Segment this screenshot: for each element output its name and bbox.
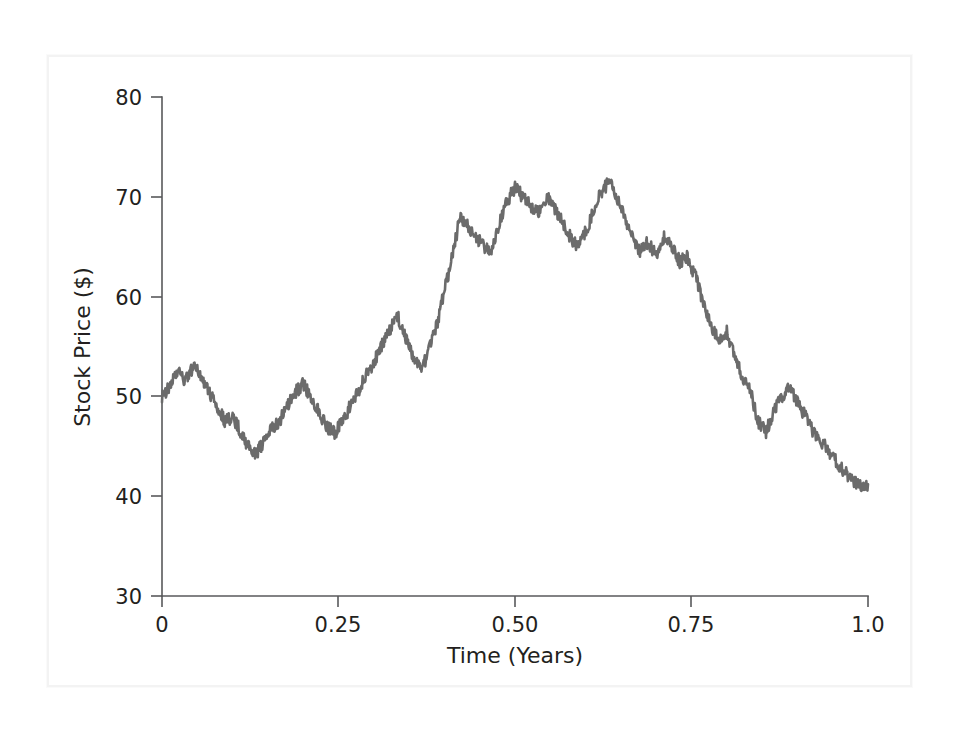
y-tick-label-50: 50 (115, 385, 142, 409)
x-tick-label-10: 1.0 (851, 613, 884, 637)
x-tick-label-025: 0.25 (315, 613, 362, 637)
figure-root: 80 70 60 50 40 30 0 0.25 0.50 0.75 1.0 T… (0, 0, 957, 737)
y-axis-ticks (151, 97, 162, 596)
x-tick-label-075: 0.75 (668, 613, 715, 637)
x-tick-label-050: 0.50 (492, 613, 539, 637)
y-tick-label-80: 80 (115, 86, 142, 110)
y-tick-label-40: 40 (115, 485, 142, 509)
y-axis-tick-labels: 80 70 60 50 40 30 (115, 86, 142, 609)
x-axis-tick-labels: 0 0.25 0.50 0.75 1.0 (155, 613, 884, 637)
x-tick-label-0: 0 (155, 613, 168, 637)
y-tick-label-70: 70 (115, 186, 142, 210)
x-axis-ticks (162, 596, 868, 607)
stock-price-series-line (162, 179, 868, 491)
y-axis-title: Stock Price ($) (70, 267, 95, 427)
x-axis-title: Time (Years) (446, 643, 583, 668)
stock-price-line-chart: 80 70 60 50 40 30 0 0.25 0.50 0.75 1.0 T… (0, 0, 957, 737)
y-tick-label-30: 30 (115, 585, 142, 609)
y-tick-label-60: 60 (115, 286, 142, 310)
